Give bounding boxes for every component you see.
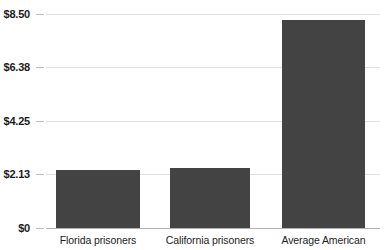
plot-area: $0$2.13$4.25$6.38$8.50 [46,10,380,232]
x-axis-category-label: California prisoners [166,234,254,246]
y-axis-tick-mark [36,174,44,175]
y-axis-tick-mark [36,67,44,68]
bar [56,170,140,228]
x-axis-category-label: Florida prisoners [60,234,137,246]
y-axis-tick-label: $0 [0,222,30,234]
x-axis-category-label: Average American [281,234,365,246]
y-axis-tick-mark [36,121,44,122]
y-axis-tick-mark [36,228,44,229]
x-axis-category-labels: Florida prisonersCalifornia prisonersAve… [46,234,380,250]
bar [282,20,365,228]
y-axis-tick-label: $2.13 [0,168,30,180]
y-axis-tick-label: $6.38 [0,61,30,73]
y-axis-tick-mark [36,14,44,15]
y-axis-tick-label: $8.50 [0,8,30,20]
bar [170,168,250,228]
bar-chart: $0$2.13$4.25$6.38$8.50 Florida prisoners… [0,0,384,250]
bars-group [46,10,380,232]
y-axis-tick-label: $4.25 [0,115,30,127]
